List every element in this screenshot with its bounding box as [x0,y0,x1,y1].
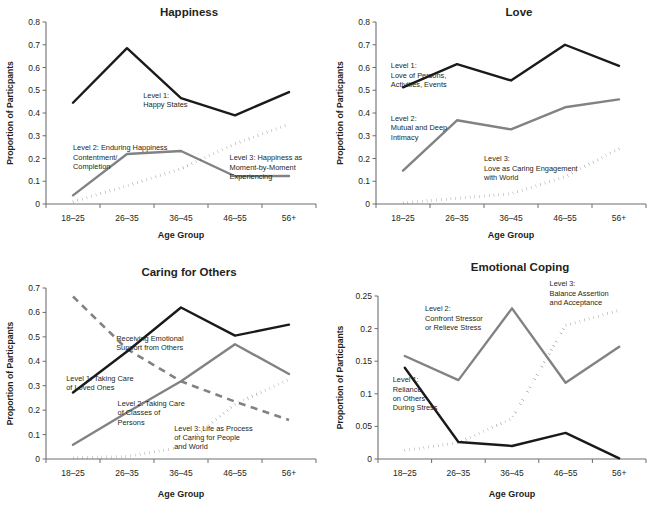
y-tick-label: 0.2 [28,154,40,164]
x-tick-label: 46–55 [554,468,578,478]
chart-panel-1: Happiness00.10.20.30.40.50.60.70.818–252… [0,0,330,258]
chart-title: Caring for Others [141,266,236,278]
annotation-line: Level 2: [391,114,417,123]
annotation-line: Intimacy [391,133,419,142]
chart-panel-3: Caring for Others00.10.20.30.40.50.60.71… [0,258,330,517]
y-tick-label: 0.7 [28,40,40,50]
y-tick-label: 0.6 [28,307,40,317]
series-annotation: Receiving EmotionalSupport from Others [116,334,184,352]
annotation-line: Love as Caring Engagement [484,164,578,173]
x-tick-label: 36–45 [169,213,193,223]
y-tick-label: 0.8 [358,17,370,27]
series-line-level-2 [403,99,619,170]
x-tick-label: 46–55 [553,213,577,223]
x-tick-label: 26–35 [115,213,139,223]
annotation-line: Level 2: Taking Care [118,399,185,408]
annotation-line: Level 1: Taking Care [66,374,133,383]
x-tick-label: 26–35 [447,468,471,478]
annotation-line: Confront Stressor [425,314,483,323]
x-axis-label: Age Group [489,489,536,499]
x-axis-label: Age Group [158,489,205,499]
annotation-line: Contentment/ [73,153,118,162]
series-annotation: Level 2: Taking Careof Classes ofPersons [118,399,185,427]
y-tick-label: 0.5 [358,85,370,95]
chart-title: Happiness [160,6,218,18]
annotation-line: Happy States [143,100,188,109]
x-tick-label: 46–55 [223,213,247,223]
annotation-line: Balance Assertion [550,289,609,298]
series-annotation: Level 3: Life as Processof Caring for Pe… [174,424,253,452]
y-tick-label: 0.3 [28,381,40,391]
y-tick-label: 0 [35,454,40,464]
x-tick-label: 26–35 [115,468,139,478]
annotation-line: with World [483,173,518,182]
y-tick-label: 0.4 [28,108,40,118]
annotation-line: on Others [393,394,426,403]
annotation-line: and World [174,442,208,451]
series-annotation: Level 2: Enduring HappinessContentment/C… [73,143,168,171]
x-tick-label: 18–25 [391,213,415,223]
y-tick-label: 0 [365,199,370,209]
series-line-level-1 [405,368,619,459]
annotation-line: Level 1: [393,375,419,384]
x-tick-label: 36–45 [499,213,523,223]
x-tick-label: 56+ [612,213,626,223]
series-annotation: Level 3:Balance Assertionand Acceptance [550,279,609,307]
x-tick-label: 56+ [282,213,296,223]
y-tick-label: 0.1 [360,389,372,399]
y-tick-label: 0.4 [358,108,370,118]
y-tick-label: 0.3 [358,131,370,141]
annotation-line: Level 2: Enduring Happiness [73,143,168,152]
x-tick-label: 36–45 [169,468,193,478]
y-tick-label: 0.5 [28,332,40,342]
annotation-line: Experiencing [230,172,273,181]
annotation-line: Level 3: [550,279,576,288]
series-annotation: Level 2:Confront Stressoror Relieve Stre… [425,304,483,332]
annotation-line: Completion [73,162,110,171]
annotation-line: Level 2: [425,304,451,313]
y-axis-label: Proportion of Particpants [335,325,345,429]
annotation-line: Receiving Emotional [116,334,184,343]
y-tick-label: 0.4 [28,356,40,366]
annotation-line: Mutual and Deep [391,123,447,132]
y-tick-label: 0.7 [28,283,40,293]
series-annotation: Level 3: Happiness asMoment-by-MomentExp… [230,153,303,181]
x-tick-label: 56+ [282,468,296,478]
y-tick-label: 0.25 [355,291,372,301]
annotation-line: Level 1: [143,91,169,100]
annotation-line: During Stress [393,403,438,412]
annotation-line: Activities, Events [391,80,447,89]
annotation-line: Love of Persons, [391,71,446,80]
x-tick-label: 36–45 [500,468,524,478]
y-tick-label: 0.6 [358,63,370,73]
y-tick-label: 0 [35,199,40,209]
y-tick-label: 0.2 [28,405,40,415]
annotation-line: Reliance [393,385,422,394]
annotation-line: of Classes of [118,408,162,417]
x-tick-label: 56+ [612,468,626,478]
y-tick-label: 0.6 [28,63,40,73]
annotation-line: Level 3: Happiness as [230,153,303,162]
x-tick-label: 26–35 [445,213,469,223]
x-tick-label: 46–55 [223,468,247,478]
annotation-line: Moment-by-Moment [230,163,296,172]
x-axis-label: Age Group [488,230,535,240]
annotation-line: of Caring for People [174,433,240,442]
chart-title: Emotional Coping [471,261,569,273]
series-annotation: Level 1: Taking Careof Loved Ones [66,374,133,392]
series-annotation: Level 1:Happy States [143,91,188,109]
y-tick-label: 0.2 [358,154,370,164]
y-tick-label: 0.1 [358,176,370,186]
x-tick-label: 18–25 [393,468,417,478]
annotation-line: Support from Others [116,343,183,352]
y-tick-label: 0.05 [355,421,372,431]
y-tick-label: 0.5 [28,85,40,95]
annotation-line: of Loved Ones [66,383,114,392]
y-tick-label: 0.15 [355,356,372,366]
y-axis-label: Proportion of Particpants [335,61,345,165]
x-tick-label: 18–25 [61,468,85,478]
y-tick-label: 0.1 [28,430,40,440]
four-panel-line-chart-figure: Happiness00.10.20.30.40.50.60.70.818–252… [0,0,660,517]
series-annotation: Level 1:Love of Persons,Activities, Even… [391,61,447,89]
x-axis-label: Age Group [158,230,205,240]
